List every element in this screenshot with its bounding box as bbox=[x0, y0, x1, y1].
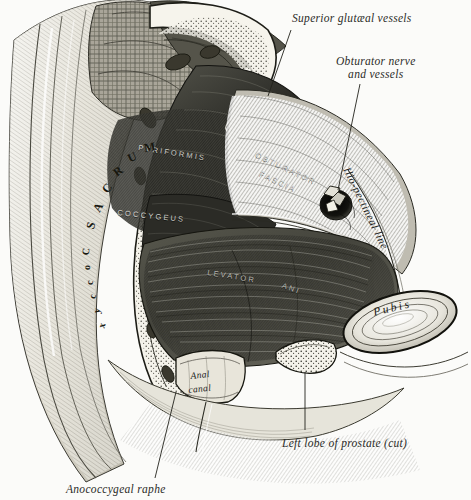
label-anal-canal-line1: Anal bbox=[190, 369, 210, 381]
label-superior-gluteal-vessels: Superior glutæal vessels bbox=[292, 12, 412, 24]
label-left-lobe-of-prostate: Left lobe of prostate (cut) bbox=[282, 437, 407, 449]
label-obturator-line1: Obturator nerve bbox=[336, 55, 416, 68]
label-obturator-line2: and vessels bbox=[336, 68, 416, 81]
anal-canal-stump bbox=[176, 351, 245, 404]
label-anococcygeal-raphe: Anococcygeal raphe bbox=[66, 483, 166, 495]
anatomical-plate: Superior glutæal vessels Obturator nerve… bbox=[0, 0, 471, 500]
label-obturator-nerve-and-vessels: Obturator nerve and vessels bbox=[336, 55, 416, 81]
